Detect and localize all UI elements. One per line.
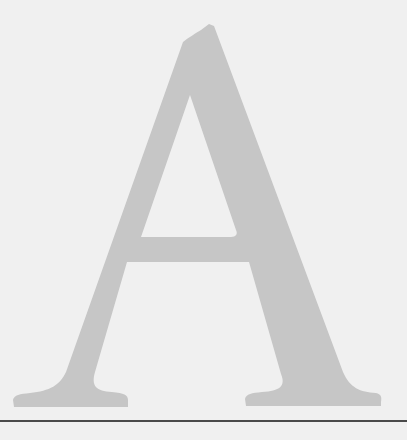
horizontal-rule [0, 420, 407, 422]
letter-a-glyph [13, 24, 381, 407]
drop-cap-letter-a [0, 0, 407, 440]
drop-cap-canvas: A [0, 0, 407, 440]
